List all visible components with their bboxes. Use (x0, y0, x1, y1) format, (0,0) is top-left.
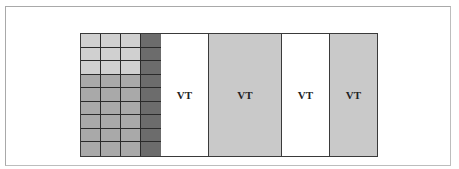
grid-cell (81, 102, 101, 116)
grid-cell (141, 75, 161, 89)
grid-cell (101, 142, 121, 156)
grid-cell (141, 115, 161, 129)
grid-cell (101, 61, 121, 75)
grid-cell (121, 61, 141, 75)
grid-cell (101, 129, 121, 143)
grid-cell (121, 75, 141, 89)
vt-label: VT (346, 89, 361, 101)
grid-cell (121, 88, 141, 102)
grid-cell (141, 48, 161, 62)
grid-cell (101, 34, 121, 48)
vt-label: VT (298, 89, 313, 101)
vt-column-4: VT (330, 34, 377, 156)
grid-cell (101, 102, 121, 116)
grid-cell (81, 34, 101, 48)
grid-cell (141, 61, 161, 75)
grid-cell (101, 75, 121, 89)
grid-cell (121, 102, 141, 116)
grid-cell (121, 142, 141, 156)
grid-cell (141, 129, 161, 143)
grid-cell (141, 34, 161, 48)
grid-cell (121, 129, 141, 143)
grid-cell (81, 61, 101, 75)
grid-cell (101, 115, 121, 129)
grid-cell (81, 142, 101, 156)
grid-cell (101, 48, 121, 62)
vt-label: VT (177, 89, 192, 101)
grid-cell (81, 48, 101, 62)
grid-cell (141, 88, 161, 102)
grid-cell (141, 102, 161, 116)
grid-cell (81, 115, 101, 129)
diagram-figure: VT VT VT VT (80, 33, 378, 157)
grid-cell (81, 75, 101, 89)
vt-label: VT (237, 89, 252, 101)
vt-column-3: VT (282, 34, 330, 156)
cell-grid (81, 34, 161, 156)
vt-column-2: VT (209, 34, 282, 156)
grid-cell (141, 142, 161, 156)
grid-cell (121, 115, 141, 129)
vt-column-1: VT (161, 34, 209, 156)
grid-cell (81, 129, 101, 143)
grid-cell (101, 88, 121, 102)
grid-cell (81, 88, 101, 102)
grid-cell (121, 34, 141, 48)
grid-cell (121, 48, 141, 62)
